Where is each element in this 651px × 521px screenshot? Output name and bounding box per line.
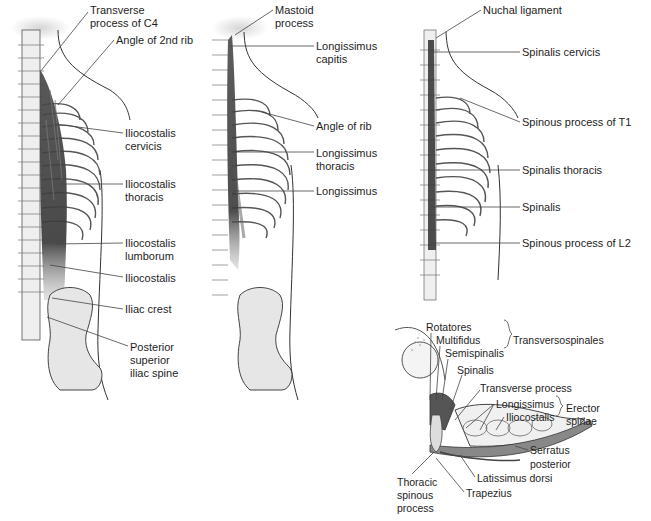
label-longissimus-capitis-line1: Longissimus: [316, 40, 377, 53]
pelvis-2: [238, 288, 292, 391]
label-spinalis-cervicis: Spinalis cervicis: [522, 46, 600, 59]
label-serratus-posterior-line1: Serratus: [530, 444, 570, 456]
label-longissimus-thoracis-line2: thoracis: [316, 160, 355, 173]
label-psis-line1: Posterior: [130, 341, 174, 354]
label-longissimus-capitis-line2: capitis: [316, 53, 347, 66]
label-spinalis: Spinalis: [522, 201, 561, 214]
label-iliocostalis-thoracis-line1: Iliocostalis: [125, 178, 176, 191]
label-latissimus-dorsi: Latissimus dorsi: [477, 472, 552, 484]
label-thoracic-spinous-process-line1: Thoracic: [397, 476, 437, 488]
label-cs-longissimus: Longissimus: [496, 398, 554, 410]
label-semispinalis: Semispinalis: [445, 347, 504, 359]
label-angle-of-rib: Angle of rib: [316, 120, 372, 133]
label-longissimus-thoracis-line1: Longissimus: [316, 147, 377, 160]
label-iliocostalis-cervicis-line2: cervicis: [125, 140, 162, 153]
illustration: [0, 0, 651, 521]
label-transverse-process-c4-line1: Transverse: [90, 4, 145, 17]
label-rotatores: Rotatores: [426, 321, 472, 333]
label-longissimus: Longissimus: [316, 185, 377, 198]
rib-cage-3: [436, 97, 490, 236]
label-iliocostalis: Iliocostalis: [125, 272, 176, 285]
label-iliocostalis-lumborum-line2: lumborum: [125, 250, 174, 263]
label-nuchal-ligament: Nuchal ligament: [483, 4, 562, 17]
label-iliocostalis-cervicis-line1: Iliocostalis: [125, 127, 176, 140]
label-spinous-process-t1: Spinous process of T1: [522, 116, 631, 129]
label-transverse-process-c4-line2: process of C4: [90, 17, 158, 30]
label-psis-line3: iliac spine: [130, 367, 178, 380]
label-spinous-process-l2: Spinous process of L2: [522, 237, 631, 250]
label-thoracic-spinous-process-line3: process: [397, 502, 434, 514]
panel-longissimus: [212, 16, 318, 400]
label-iliac-crest: Iliac crest: [125, 303, 171, 316]
panel-iliocostalis: [10, 16, 130, 400]
label-transverse-process: Transverse process: [480, 382, 572, 394]
label-cs-iliocostalis: Iliocostalis: [506, 411, 554, 423]
label-mastoid-process-line2: process: [275, 17, 314, 30]
label-iliocostalis-thoracis-line2: thoracis: [125, 191, 164, 204]
label-transversospinales: Transversospinales: [513, 334, 604, 346]
label-spinalis-thoracis: Spinalis thoracis: [522, 164, 602, 177]
label-thoracic-spinous-process-line2: spinous: [397, 489, 433, 501]
label-erector-spinae-line1: Erector: [566, 402, 600, 414]
label-erector-spinae-line2: spinae: [566, 415, 597, 427]
label-iliocostalis-lumborum-line1: Iliocostalis: [125, 237, 176, 250]
label-cs-spinalis: Spinalis: [457, 364, 494, 376]
panel-spinalis: [420, 30, 518, 300]
pelvis-1: [48, 288, 102, 391]
label-trapezius: Trapezius: [466, 487, 512, 499]
label-multifidus: Multifidus: [436, 334, 480, 346]
anatomy-figure: Transverse process of C4 Angle of 2nd ri…: [0, 0, 651, 521]
label-mastoid-process-line1: Mastoid: [275, 4, 314, 17]
label-psis-line2: superior: [130, 354, 170, 367]
label-serratus-posterior-line2: posterior: [530, 458, 571, 470]
label-angle-2nd-rib: Angle of 2nd rib: [116, 34, 193, 47]
